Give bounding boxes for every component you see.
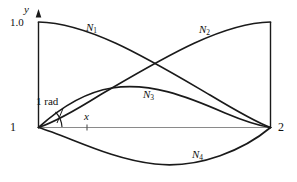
curve-label-n2-sub: 2 [206, 28, 210, 37]
curve-label-n4-sub: 4 [199, 153, 203, 162]
y-axis-arrow-icon [36, 9, 42, 18]
figure-canvas: y 1.0 x 1 2 1 rad N1 N2 N3 N4 [0, 0, 297, 182]
node-label-right: 2 [278, 121, 284, 133]
x-axis-label: x [84, 111, 89, 122]
node-label-left: 1 [10, 121, 16, 133]
curve-label-n1: N1 [86, 22, 97, 35]
curve-label-n1-sub: 1 [93, 26, 97, 35]
curve-label-n2: N2 [199, 24, 210, 37]
y-axis-label: y [24, 4, 29, 15]
curve-label-n4: N4 [192, 149, 203, 162]
curve-n4 [39, 128, 271, 165]
curve-n2 [39, 22, 271, 128]
curve-label-n3-sub: 3 [150, 93, 154, 102]
curve-n3 [39, 87, 271, 128]
y-tick-label-1.0: 1.0 [10, 17, 24, 28]
angle-annotation-label: 1 rad [36, 96, 58, 107]
curve-label-n3: N3 [143, 89, 154, 102]
